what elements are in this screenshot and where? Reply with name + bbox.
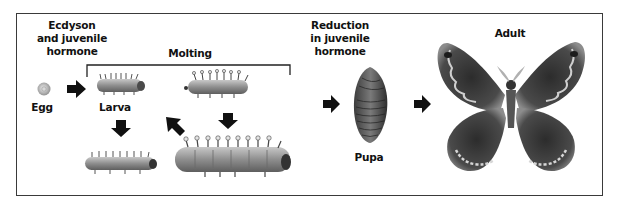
caterpillar-icon <box>184 69 248 98</box>
egg-icon <box>38 83 51 96</box>
molting-bracket <box>87 65 290 77</box>
lifecycle-illustration <box>0 0 621 207</box>
pupa-icon <box>354 67 387 143</box>
caterpillar-icon <box>175 136 291 177</box>
arrow-icon <box>67 80 86 98</box>
arrow-icon <box>166 117 185 136</box>
arrow-icon <box>323 95 340 113</box>
caterpillar-icon <box>85 151 157 174</box>
moth-icon <box>438 42 585 171</box>
arrow-icon <box>218 113 238 129</box>
arrow-icon <box>414 95 431 113</box>
arrow-icon <box>111 120 131 137</box>
caterpillar-icon <box>97 73 145 95</box>
